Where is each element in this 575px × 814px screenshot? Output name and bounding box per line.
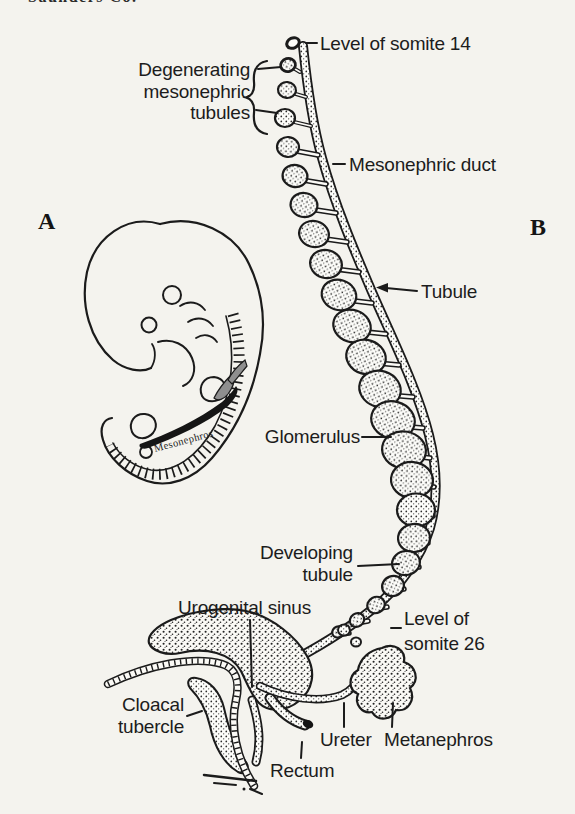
glomerular-tubule <box>296 218 332 251</box>
label-urogenital-sinus: Urogenital sinus <box>178 597 311 618</box>
leader-tubule-arrow <box>386 288 417 291</box>
embryo-eye <box>142 318 157 333</box>
label-level-of-somite-14: Level of somite 14 <box>320 33 471 54</box>
panel-b-letter: B <box>530 214 546 241</box>
anatomy-illustration: Mesonephros <box>0 0 575 814</box>
leader-metanephros <box>392 703 393 727</box>
glomerular-tubule <box>275 109 295 127</box>
leader-degenerating-2 <box>256 110 277 113</box>
glomerular-tubule <box>276 136 300 158</box>
label-mesonephric-duct: Mesonephric duct <box>349 154 496 175</box>
label-developing-tubule: Developing tubule <box>233 542 353 585</box>
label-rectum: Rectum <box>270 760 334 781</box>
embryo-hindlimb-bud <box>131 414 156 438</box>
glomerular-tubule <box>318 275 361 314</box>
panel-a-letter: A <box>38 208 55 235</box>
leader-degenerating-1 <box>258 67 281 69</box>
embryo-otic-vesicle <box>163 286 181 304</box>
embryo-sketch: Mesonephros <box>85 221 263 483</box>
glomerular-tubule <box>307 246 345 281</box>
label-ureter: Ureter <box>320 729 372 750</box>
label-glomerulus: Glomerulus <box>260 426 360 448</box>
leader-tubule-arrowhead <box>376 283 388 293</box>
label-degenerating-mesonephric-tubules: Degenerating mesonephric tubules <box>108 59 250 124</box>
label-cloacal-tubercle: Cloacal tubercle <box>104 694 184 737</box>
label-level-of-somite-26: Level of somite 26 <box>404 606 485 656</box>
leader-cloacal-tubercle <box>187 711 202 716</box>
glomerular-tubule <box>288 190 319 219</box>
glomerular-tubule <box>277 81 296 99</box>
embryo-head-outline <box>85 222 160 371</box>
label-tubule: Tubule <box>421 281 477 302</box>
embryo-heart-bulge <box>158 341 194 386</box>
glomerular-tubule <box>397 494 435 527</box>
metanephros-shape <box>351 646 416 719</box>
leader-rectum <box>301 742 302 758</box>
textbook-figure-page: Saunders Co. <box>0 0 575 814</box>
glomerular-tubule <box>281 163 309 189</box>
label-metanephros: Metanephros <box>384 729 493 750</box>
